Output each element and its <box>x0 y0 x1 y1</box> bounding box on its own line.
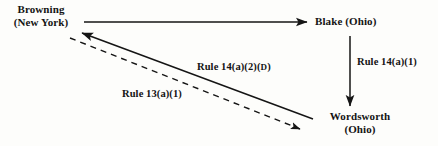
edge-label-rule-14a2d-suffix: )( <box>253 61 260 72</box>
node-wordsworth-jurisdiction: (Ohio) <box>314 123 406 136</box>
edge-label-rule-14a2d-end: ) <box>267 61 271 72</box>
edge-label-rule-14a2d: Rule 14(a)(2)(D) <box>197 61 271 72</box>
edge-browning-to-wordsworth <box>70 38 300 129</box>
node-browning-name: Browning <box>17 3 64 15</box>
node-wordsworth: Wordsworth (Ohio) <box>314 110 406 136</box>
node-browning-jurisdiction: (New York) <box>4 16 78 29</box>
node-blake: Blake (Ohio) <box>315 15 411 28</box>
edge-label-rule-14a1: Rule 14(a)(1) <box>357 56 417 67</box>
node-browning: Browning (New York) <box>4 3 78 29</box>
diagram-canvas: Browning (New York) Blake (Ohio) Wordswo… <box>0 0 438 146</box>
node-wordsworth-name: Wordsworth <box>330 110 390 122</box>
edge-label-rule-14a2d-prefix: Rule 14(a)( <box>197 61 248 72</box>
edge-label-rule-13a1: Rule 13(a)(1) <box>122 88 182 99</box>
node-blake-name: Blake (Ohio) <box>315 15 376 27</box>
edge-wordsworth-to-browning <box>82 33 313 119</box>
